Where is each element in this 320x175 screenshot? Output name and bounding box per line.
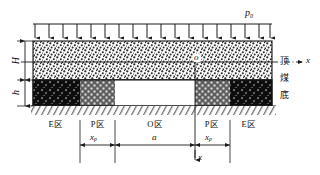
dimension-label-xp-left-subscript: p <box>94 136 97 142</box>
coal-seam <box>33 80 272 106</box>
figure-canvas: p0 H h o x 顶 煤 底 E区 P区 O区 P区 E区 xp a xp … <box>0 0 320 175</box>
dimension-label-h: h <box>10 86 21 100</box>
opening-zone-block <box>115 80 195 106</box>
load-arrows <box>35 24 270 38</box>
plastic-zone-left-block <box>80 80 115 106</box>
roof-stratum <box>33 41 272 80</box>
dimension-label-xp-left: xp <box>90 133 97 143</box>
origin-label: o <box>194 53 199 62</box>
axis-label-x-bottom: x <box>198 153 202 162</box>
dimension-label-H: H <box>10 54 21 68</box>
strata-label-roof: 顶 <box>277 56 290 67</box>
load-label-subscript: 0 <box>250 12 253 19</box>
distributed-load <box>33 24 272 38</box>
strata-label-floor: 底 <box>277 90 290 101</box>
dimension-label-a: a <box>152 133 157 142</box>
axis-label-x: x <box>306 56 310 65</box>
zone-label-elastic-left: E区 <box>40 117 72 129</box>
dimension-label-xp-right: xp <box>205 133 212 143</box>
strata-label-coal: 煤 <box>277 73 290 84</box>
elastic-zone-right-block <box>230 80 272 106</box>
zone-label-opening: O区 <box>139 117 171 129</box>
load-label: p0 <box>245 8 253 19</box>
zone-label-elastic-right: E区 <box>233 117 265 129</box>
zone-label-plastic-right: P区 <box>196 117 228 129</box>
elastic-zone-left-block <box>33 80 80 106</box>
plastic-zone-right-block <box>195 80 230 106</box>
zone-label-plastic-left: P区 <box>82 117 114 129</box>
floor-support-hatch <box>31 106 276 115</box>
schematic-svg <box>0 0 320 175</box>
dimension-label-xp-right-subscript: p <box>209 136 212 142</box>
